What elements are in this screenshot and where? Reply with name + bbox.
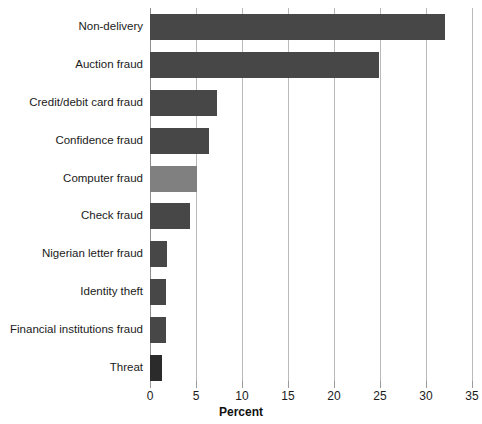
category-label-computer-fraud: Computer fraud (63, 173, 143, 185)
category-label-threat: Threat (110, 362, 143, 374)
x-tickmark-5 (196, 381, 197, 388)
x-tickmark-15 (288, 381, 289, 388)
x-tick-label-25: 25 (373, 390, 386, 402)
x-tickmark-35 (472, 381, 473, 388)
bar-check-fraud (150, 203, 190, 229)
bar-row (150, 84, 472, 122)
category-axis-labels: Non-deliveryAuction fraudCredit/debit ca… (0, 8, 143, 387)
x-tick-label-10: 10 (235, 390, 248, 402)
x-tick-label-35: 35 (465, 390, 478, 402)
bar-credit-debit-card-fraud (150, 90, 217, 116)
x-tickmark-20 (334, 381, 335, 388)
bar-row (150, 122, 472, 160)
bar-financial-institutions-fraud (150, 317, 166, 343)
horizontal-bar-chart: Non-deliveryAuction fraudCredit/debit ca… (0, 0, 482, 424)
bar-row (150, 349, 472, 387)
category-label-nigerian-letter-fraud: Nigerian letter fraud (42, 248, 143, 260)
bar-row (150, 8, 472, 46)
category-label-non-delivery: Non-delivery (78, 21, 143, 33)
x-tick-label-30: 30 (419, 390, 432, 402)
bar-row (150, 273, 472, 311)
bar-auction-fraud (150, 52, 379, 78)
x-axis-title: Percent (0, 406, 482, 418)
gridline-35 (472, 8, 473, 387)
x-tickmark-10 (242, 381, 243, 388)
bar-row (150, 235, 472, 273)
bar-row (150, 311, 472, 349)
x-tick-label-5: 5 (193, 390, 200, 402)
x-tick-label-0: 0 (147, 390, 154, 402)
bar-computer-fraud (150, 166, 197, 192)
bar-row (150, 46, 472, 84)
x-tick-label-20: 20 (327, 390, 340, 402)
category-label-credit-debit-card-fraud: Credit/debit card fraud (29, 97, 143, 109)
bar-non-delivery (150, 14, 445, 40)
category-label-check-fraud: Check fraud (81, 210, 143, 222)
category-label-auction-fraud: Auction fraud (75, 59, 143, 71)
bar-identity-theft (150, 279, 166, 305)
category-label-confidence-fraud: Confidence fraud (55, 135, 143, 147)
x-tick-label-15: 15 (281, 390, 294, 402)
bar-threat (150, 355, 162, 381)
x-tickmark-25 (380, 381, 381, 388)
plot-bars (150, 8, 472, 387)
category-label-identity-theft: Identity theft (80, 286, 143, 298)
x-tickmark-30 (426, 381, 427, 388)
x-tickmark-0 (150, 381, 151, 388)
bar-confidence-fraud (150, 128, 209, 154)
category-label-financial-institutions-fraud: Financial institutions fraud (10, 324, 143, 336)
bar-nigerian-letter-fraud (150, 241, 167, 267)
bar-row (150, 160, 472, 198)
bar-row (150, 198, 472, 236)
